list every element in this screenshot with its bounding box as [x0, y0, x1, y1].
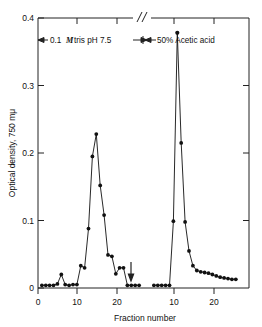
x-tick-label-left-0: 0	[36, 297, 41, 307]
plot-frame	[38, 18, 249, 288]
y-tick-label-0.2: 0.2	[22, 148, 34, 158]
series-line-acid	[154, 33, 236, 285]
x-tick-label-right-20: 20	[209, 297, 219, 307]
acid-phase-bar	[145, 38, 156, 43]
y-tick-label-0.1: 0.1	[22, 216, 34, 226]
x-tick-label-left-10: 10	[72, 297, 82, 307]
elution-start-marker-icon	[128, 262, 133, 281]
acid-phase-label: 50% Acetic acid	[157, 36, 215, 45]
x-axis-title: Fraction number	[114, 313, 176, 323]
chart-svg: 0.4 0.3 0.2 0.1 0 0 10 20 10 20 Fraction…	[0, 0, 262, 327]
series-line-buffer	[42, 134, 139, 285]
buffer-phase-label-italic: M	[65, 36, 74, 45]
series-markers-acid	[152, 31, 238, 287]
x-axis-ticks-left	[38, 18, 117, 294]
axis-break-icon	[137, 12, 147, 22]
y-axis-ticks	[38, 18, 249, 288]
y-tick-label-0.3: 0.3	[22, 81, 34, 91]
y-tick-label-0: 0	[29, 283, 34, 293]
x-axis-ticks-right	[174, 18, 214, 294]
buffer-phase-label-suffix: tris pH 7.5	[74, 36, 112, 45]
buffer-phase-label-prefix: 0.1	[50, 36, 62, 45]
x-tick-label-left-20: 20	[112, 297, 122, 307]
series-markers-buffer	[40, 132, 141, 287]
x-tick-label-right-10: 10	[169, 297, 179, 307]
chromatography-elution-chart: 0.4 0.3 0.2 0.1 0 0 10 20 10 20 Fraction…	[0, 0, 262, 327]
y-axis-title: Optical density, 750 mμ	[7, 109, 17, 197]
y-tick-label-0.4: 0.4	[22, 13, 34, 23]
